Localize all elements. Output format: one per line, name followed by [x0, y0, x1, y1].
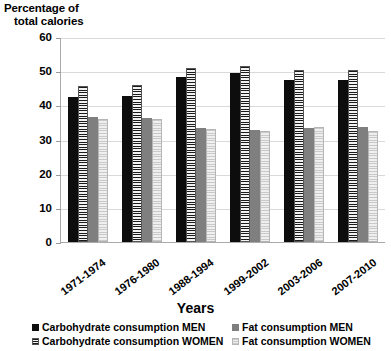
x-axis-title: Years	[0, 300, 391, 316]
legend-label: Fat consumption MEN	[242, 321, 353, 333]
bar	[132, 85, 142, 242]
y-axis-tick-mark	[56, 106, 61, 107]
bar	[98, 119, 108, 242]
bar	[68, 97, 78, 242]
legend-swatch-icon	[232, 324, 239, 331]
legend-swatch-icon	[32, 324, 39, 331]
y-axis-tick-label: 50	[0, 65, 52, 77]
legend-item[interactable]: Carbohydrate consumption MEN	[32, 321, 232, 333]
bar	[122, 96, 132, 242]
bar	[368, 131, 378, 242]
legend-item[interactable]: Fat consumption MEN	[232, 321, 384, 333]
y-axis-tick-label: 0	[0, 236, 52, 248]
bar	[186, 68, 196, 242]
bar	[260, 131, 270, 242]
y-axis-tick-mark	[56, 72, 61, 73]
bar	[294, 70, 304, 242]
x-axis-tick-label: 1999-2002	[221, 256, 270, 297]
bar	[78, 86, 88, 242]
legend-label: Carbohydrate consumption WOMEN	[42, 335, 223, 347]
y-axis-tick-mark	[56, 38, 61, 39]
bar	[142, 118, 152, 242]
bar	[250, 130, 260, 242]
legend-swatch-icon	[232, 338, 239, 345]
y-axis-title-line2: total calories	[4, 15, 124, 28]
bar	[196, 128, 206, 242]
bar-group	[338, 38, 378, 242]
bar	[304, 128, 314, 242]
bar	[152, 119, 162, 242]
bar	[176, 77, 186, 242]
bar	[314, 127, 324, 242]
x-axis-tick-label: 2007-2010	[329, 256, 378, 297]
bar	[230, 73, 240, 242]
bar	[358, 127, 368, 242]
bar	[206, 129, 216, 242]
bar-group	[122, 38, 162, 242]
y-axis-tick-mark	[56, 243, 61, 244]
y-axis-title-line1: Percentage of	[4, 2, 79, 14]
plot-area	[60, 38, 385, 243]
x-axis-tick-label: 1971-1974	[58, 256, 107, 297]
y-axis-tick-label: 40	[0, 99, 52, 111]
x-axis-tick-label: 1976-1980	[113, 256, 162, 297]
y-axis-tick-mark	[56, 175, 61, 176]
y-axis-tick-label: 60	[0, 31, 52, 43]
bar-chart: Percentage of total calories 01020304050…	[0, 0, 391, 351]
bar-group	[68, 38, 108, 242]
legend-label: Fat consumption WOMEN	[242, 335, 371, 347]
y-axis-tick-mark	[56, 209, 61, 210]
bar	[88, 117, 98, 242]
chart-legend: Carbohydrate consumption MENFat consumpt…	[32, 320, 384, 348]
y-axis-tick-label: 20	[0, 168, 52, 180]
bar-groups	[61, 38, 385, 242]
y-axis-tick-label: 10	[0, 202, 52, 214]
bar-group	[176, 38, 216, 242]
x-axis-category-labels: 1971-19741976-19801988-19941999-20022003…	[60, 246, 385, 302]
x-axis-tick-label: 1988-1994	[167, 256, 216, 297]
y-axis-title: Percentage of total calories	[4, 2, 124, 28]
legend-label: Carbohydrate consumption MEN	[42, 321, 205, 333]
bar	[348, 70, 358, 242]
legend-item[interactable]: Fat consumption WOMEN	[232, 335, 384, 347]
bar	[338, 80, 348, 242]
legend-item[interactable]: Carbohydrate consumption WOMEN	[32, 335, 232, 347]
bar-group	[230, 38, 270, 242]
y-axis-tick-label: 30	[0, 134, 52, 146]
bar	[240, 66, 250, 242]
legend-swatch-icon	[32, 338, 39, 345]
bar-group	[284, 38, 324, 242]
bar	[284, 80, 294, 242]
x-axis-tick-label: 2003-2006	[275, 256, 324, 297]
y-axis-tick-mark	[56, 141, 61, 142]
